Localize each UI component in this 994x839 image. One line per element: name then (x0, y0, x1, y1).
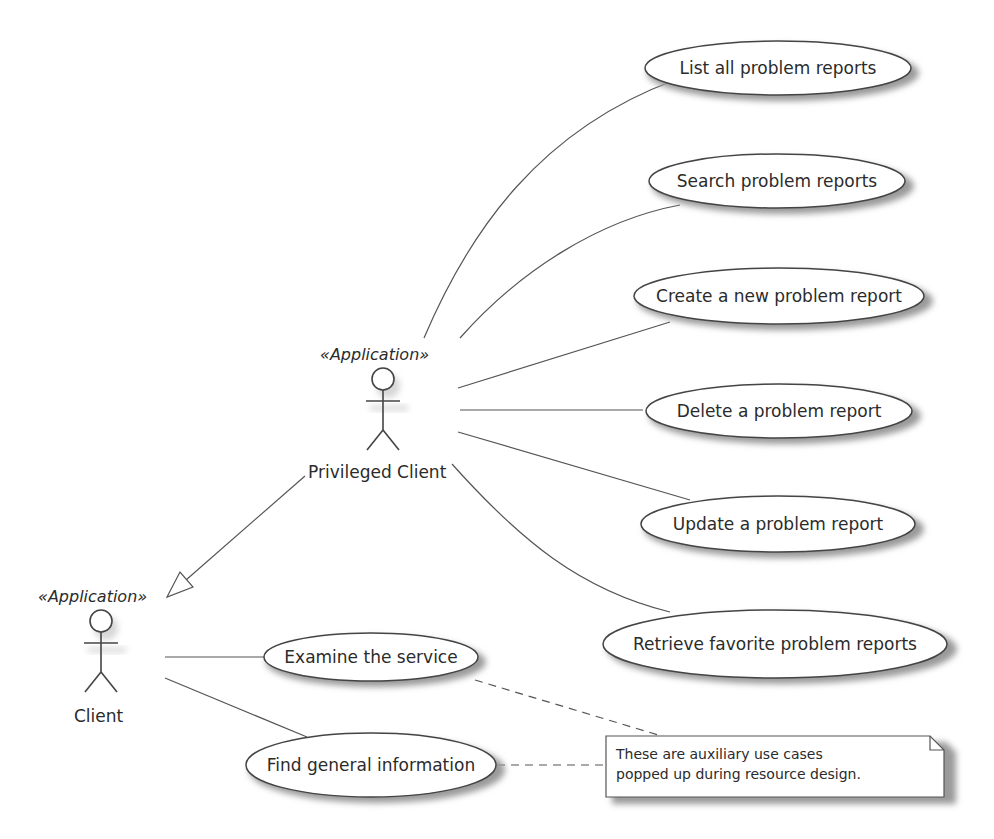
use-case-search-problem-reports[interactable]: Search problem reports (649, 154, 905, 208)
actor-privileged-client-figure (366, 368, 408, 450)
note-line-2: popped up during resource design. (616, 765, 861, 784)
note-line-1: These are auxiliary use cases (616, 745, 823, 764)
client-name[interactable]: Client (74, 706, 123, 726)
association-uc6 (452, 464, 670, 612)
association-uc5 (458, 432, 690, 500)
use-case-create-new-problem-report[interactable]: Create a new problem report (634, 268, 924, 324)
association-uc3 (458, 322, 670, 388)
client-stereotype: «Application» (38, 587, 147, 606)
use-case-retrieve-favorite-problem-reports[interactable]: Retrieve favorite problem reports (603, 610, 947, 678)
actor-client-figure (84, 610, 126, 692)
use-case-examine-the-service[interactable]: Examine the service (264, 633, 478, 681)
use-case-update-problem-report[interactable]: Update a problem report (641, 496, 915, 552)
use-case-list-all-problem-reports[interactable]: List all problem reports (645, 41, 911, 95)
association-uc8 (165, 678, 307, 737)
use-case-find-general-information[interactable]: Find general information (246, 733, 496, 797)
privileged-client-stereotype: «Application» (320, 345, 429, 364)
privileged-client-name[interactable]: Privileged Client (308, 462, 446, 482)
use-case-delete-problem-report[interactable]: Delete a problem report (646, 384, 912, 438)
generalization-arrow (167, 476, 305, 597)
